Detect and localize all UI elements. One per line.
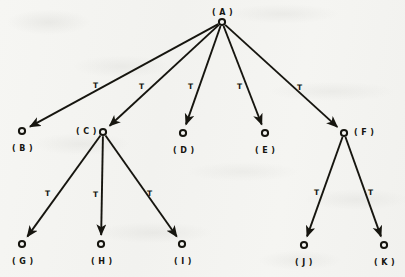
edge-label-a-b: T: [93, 81, 98, 90]
edge-a-d: [186, 26, 221, 124]
node-circle-h: [98, 241, 104, 247]
node-d[interactable]: [180, 130, 186, 136]
node-label-h: ( H ): [91, 257, 113, 266]
node-label-a: ( A ): [212, 8, 233, 17]
node-a[interactable]: [219, 19, 225, 25]
edge-label-a-e: T: [237, 82, 242, 91]
node-label-f: ( F ): [354, 128, 374, 137]
node-e[interactable]: [262, 130, 268, 136]
node-b[interactable]: [19, 128, 25, 134]
edge-c-i: [105, 136, 176, 237]
node-circle-b: [19, 128, 25, 134]
edge-label-c-i: T: [147, 189, 152, 198]
edge-label-a-c: T: [139, 82, 144, 91]
edge-label-a-f: T: [297, 83, 302, 92]
node-h[interactable]: [98, 241, 104, 247]
node-circle-i: [179, 241, 185, 247]
node-circle-a: [219, 19, 225, 25]
node-g[interactable]: [19, 241, 25, 247]
edge-label-f-j: T: [314, 188, 319, 197]
node-label-i: ( I ): [174, 257, 192, 266]
node-circle-f: [341, 130, 347, 136]
tree-graph: [0, 0, 405, 277]
edge-label-f-k: T: [368, 188, 373, 197]
node-label-d: ( D ): [173, 146, 195, 155]
node-k[interactable]: [381, 242, 387, 248]
edge-label-a-d: T: [188, 82, 193, 91]
node-f[interactable]: [341, 130, 347, 136]
nodes-layer: [19, 19, 387, 248]
node-j[interactable]: [301, 242, 307, 248]
edge-f-k: [345, 137, 380, 236]
node-circle-g: [19, 241, 25, 247]
node-label-b: ( B ): [12, 144, 33, 153]
node-label-e: ( E ): [255, 146, 275, 155]
node-label-g: ( G ): [12, 257, 33, 266]
edge-label-c-g: T: [45, 189, 50, 198]
edge-f-j: [307, 137, 342, 236]
node-circle-j: [301, 242, 307, 248]
node-i[interactable]: [179, 241, 185, 247]
node-label-k: ( K ): [374, 258, 395, 267]
edge-c-h: [101, 136, 103, 235]
node-circle-d: [180, 130, 186, 136]
node-c[interactable]: [100, 129, 106, 135]
node-circle-k: [381, 242, 387, 248]
node-label-c: ( C ): [76, 127, 97, 136]
node-circle-c: [100, 129, 106, 135]
node-label-j: ( J ): [295, 258, 313, 267]
diagram-canvas: ( A )( B )( C )( D )( E )( F )( G )( H )…: [0, 0, 405, 277]
node-circle-e: [262, 130, 268, 136]
edge-label-c-h: T: [93, 190, 98, 199]
edge-c-g: [27, 135, 100, 236]
